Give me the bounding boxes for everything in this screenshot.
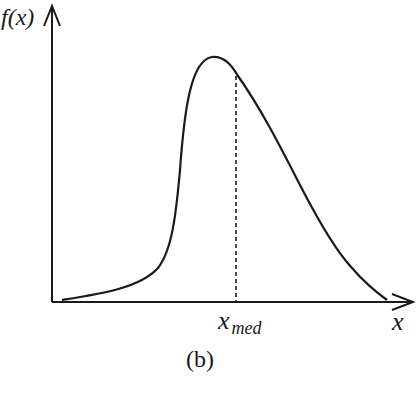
figure-caption: (b)	[186, 346, 214, 373]
median-label-subscript: med	[232, 318, 262, 338]
median-label-base: x	[218, 306, 230, 335]
density-diagram	[0, 0, 418, 393]
median-label: xmed	[218, 306, 262, 339]
density-curve	[62, 57, 387, 300]
x-axis-label: x	[392, 307, 404, 337]
y-axis-label: f(x)	[1, 4, 34, 31]
